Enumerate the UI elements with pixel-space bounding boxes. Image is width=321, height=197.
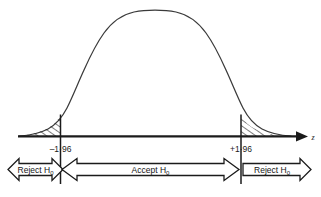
right-reject-region-band: Reject H0 bbox=[243, 159, 311, 181]
lower-critical-value-label: –1·96 bbox=[50, 144, 72, 154]
accept-label-main: Accept H bbox=[132, 165, 167, 175]
accept-label: Accept H0 bbox=[132, 165, 171, 176]
upper-critical-value-label: +1·96 bbox=[230, 144, 252, 154]
z-axis-label: z bbox=[310, 133, 315, 142]
right-reject-label-main: Reject H bbox=[254, 165, 287, 175]
diagram-canvas: z –1·96 +1·96 Reject H0 Accept H0 bbox=[0, 0, 321, 197]
normal-distribution-rejection-region-diagram: z –1·96 +1·96 Reject H0 Accept H0 bbox=[0, 0, 321, 197]
left-reject-label: Reject H0 bbox=[18, 165, 55, 176]
critical-value-labels-group: –1·96 +1·96 bbox=[50, 144, 253, 154]
left-rejection-tail-shading bbox=[14, 100, 66, 140]
rejection-tail-shading-group bbox=[14, 100, 288, 140]
left-reject-region-band: Reject H0 bbox=[8, 159, 63, 181]
right-rejection-tail-shading bbox=[236, 100, 288, 140]
left-reject-label-main: Reject H bbox=[18, 165, 51, 175]
accept-region-band: Accept H0 bbox=[62, 159, 239, 181]
right-reject-label: Reject H0 bbox=[254, 165, 291, 176]
z-axis-arrowhead bbox=[296, 131, 308, 141]
